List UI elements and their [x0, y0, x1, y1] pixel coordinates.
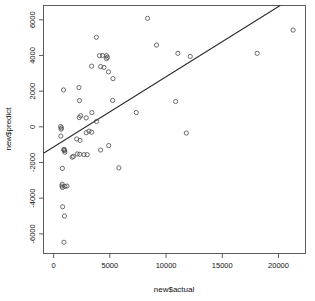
data-point — [184, 131, 188, 135]
data-point — [90, 110, 94, 114]
y-axis-tick-labels: -6000-4000-20000200040006000 — [28, 11, 37, 243]
data-point — [97, 54, 101, 58]
data-point — [60, 166, 64, 170]
data-point — [117, 166, 121, 170]
data-point — [104, 57, 108, 61]
data-point — [90, 130, 94, 134]
x-axis-ticks — [54, 254, 279, 259]
x-axis-tick-labels: 05000100001500020000 — [52, 261, 289, 270]
data-point — [188, 54, 192, 58]
data-point — [77, 99, 81, 103]
data-point — [174, 99, 178, 103]
data-point — [85, 153, 89, 157]
data-point — [145, 16, 149, 20]
y-tick-label: -6000 — [28, 224, 37, 243]
data-point — [111, 77, 115, 81]
data-point — [62, 214, 66, 218]
chart-canvas: 05000100001500020000 -6000-4000-20000200… — [0, 0, 315, 301]
y-axis-title: new$predict — [4, 107, 13, 151]
data-point — [84, 116, 88, 120]
y-tick-label: 6000 — [28, 11, 37, 28]
plot-frame — [44, 6, 306, 254]
data-point — [107, 143, 111, 147]
x-tick-label: 10000 — [156, 261, 177, 270]
data-point — [255, 51, 259, 55]
y-tick-label: 4000 — [28, 47, 37, 64]
scatter-plot-figure: 05000100001500020000 -6000-4000-20000200… — [0, 0, 315, 301]
y-tick-label: -4000 — [28, 189, 37, 208]
y-axis-ticks — [39, 20, 44, 234]
data-point — [61, 88, 65, 92]
regression-line — [44, 6, 281, 154]
data-point — [77, 85, 81, 89]
data-point — [154, 43, 158, 47]
data-point — [59, 134, 63, 138]
data-point — [94, 35, 98, 39]
data-point — [99, 148, 103, 152]
data-point — [291, 28, 295, 32]
y-tick-label: 0 — [28, 125, 37, 129]
x-tick-label: 20000 — [268, 261, 289, 270]
x-tick-label: 15000 — [212, 261, 233, 270]
x-tick-label: 5000 — [101, 261, 118, 270]
data-point — [176, 51, 180, 55]
y-tick-label: -2000 — [28, 153, 37, 172]
data-point — [106, 70, 110, 74]
x-tick-label: 0 — [52, 261, 56, 270]
data-point — [78, 152, 82, 156]
data-point — [61, 205, 65, 209]
data-point — [111, 98, 115, 102]
x-axis-title: new$actual — [154, 285, 195, 294]
data-point — [90, 64, 94, 68]
data-point — [134, 110, 138, 114]
data-point — [62, 240, 66, 244]
y-tick-label: 2000 — [28, 83, 37, 100]
data-point-series — [58, 16, 295, 244]
